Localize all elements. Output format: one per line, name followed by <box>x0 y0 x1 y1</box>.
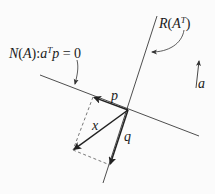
nullspace-pointer-arrow <box>75 60 78 84</box>
vector-a-label: a <box>198 76 205 91</box>
rowspace-pointer-arrow <box>152 30 184 52</box>
nullspace-line <box>40 75 199 136</box>
vector-q-label: q <box>124 129 131 144</box>
projection-diagram: N(A):aTp = 0 R(AT) p x q a <box>0 0 215 194</box>
dashed-line-x-to-q <box>73 150 110 165</box>
vector-x-label: x <box>91 118 99 133</box>
rowspace-label: R(AT) <box>158 15 191 32</box>
nullspace-label: N(A):aTp = 0 <box>8 45 81 62</box>
vector-p-label: p <box>110 88 118 103</box>
